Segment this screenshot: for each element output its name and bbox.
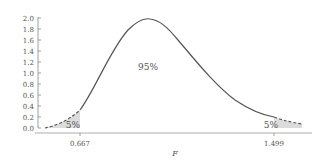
y-tick-label: 0.8	[23, 81, 34, 89]
y-tick-label: 1.4	[23, 48, 35, 56]
lower-tail-percent-label: 5%	[66, 120, 81, 130]
center-percent-label: 95%	[138, 62, 158, 72]
y-axis: 0.00.20.40.60.81.01.21.41.61.82.0	[23, 15, 41, 133]
lower-critical-value: 0.667	[70, 140, 90, 148]
upper-critical-value: 1.499	[264, 140, 284, 148]
y-tick-label: 0.0	[23, 125, 34, 133]
y-tick-label: 1.2	[23, 59, 34, 67]
y-tick-label: 1.0	[23, 70, 34, 78]
y-tick-label: 1.6	[23, 37, 35, 45]
y-tick-label: 0.4	[23, 103, 35, 111]
y-tick-label: 2.0	[23, 15, 34, 23]
x-axis: 0.667 1.499 F	[35, 133, 312, 158]
y-tick-label: 1.8	[23, 26, 34, 34]
x-axis-title: F	[171, 149, 178, 158]
upper-tail-percent-label: 5%	[264, 120, 279, 130]
f-distribution-chart: 0.00.20.40.60.81.01.21.41.61.82.0 0.667 …	[0, 0, 324, 164]
y-tick-label: 0.2	[23, 114, 34, 122]
upper-tail-shade	[274, 117, 302, 128]
density-curve-center	[80, 19, 274, 117]
y-tick-label: 0.6	[23, 92, 35, 100]
